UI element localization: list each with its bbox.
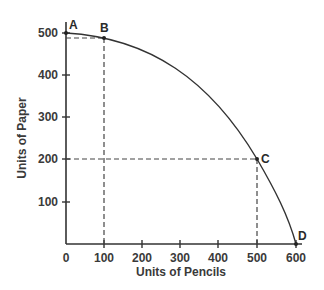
dashed-guides — [66, 38, 257, 244]
x-tick-label: 300 — [170, 251, 190, 265]
point-label-a: A — [69, 18, 78, 32]
point-label-d: D — [298, 229, 307, 243]
point-label-b: B — [100, 21, 109, 35]
x-tick-label: 400 — [208, 251, 228, 265]
y-tick-label: 100 — [38, 195, 58, 209]
y-tick-label: 300 — [38, 110, 58, 124]
point-label-c: C — [261, 152, 270, 166]
x-tick-label: 100 — [94, 251, 114, 265]
ppf-chart: 500 400 300 200 100 0 100 200 300 400 50… — [0, 0, 324, 290]
x-tick-label: 600 — [286, 251, 306, 265]
ppf-curve — [66, 33, 296, 244]
y-axis-label: Units of Paper — [15, 97, 29, 179]
y-tick-label: 200 — [38, 152, 58, 166]
y-tick-label: 500 — [38, 26, 58, 40]
x-tick-label: 0 — [63, 251, 70, 265]
x-axis-label: Units of Pencils — [136, 265, 226, 279]
x-tick-label: 500 — [247, 251, 267, 265]
curve-points — [64, 31, 298, 246]
y-tick-label: 400 — [38, 68, 58, 82]
x-tick-label: 200 — [132, 251, 152, 265]
